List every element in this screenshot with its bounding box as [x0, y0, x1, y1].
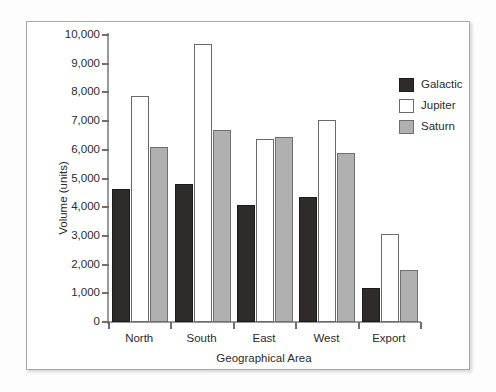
y-axis-tick-label: 7,000 — [26, 115, 100, 127]
bar-galactic-north — [112, 189, 130, 322]
bar-jupiter-east — [256, 139, 274, 322]
bar-group — [175, 35, 231, 322]
bar-group — [362, 35, 418, 322]
x-axis-label-west: West — [295, 333, 357, 345]
x-axis-label-south: South — [170, 333, 232, 345]
y-axis-tick-label: 10,000 — [26, 29, 100, 41]
x-axis-label-export: Export — [358, 333, 420, 345]
y-axis-tick-label: 9,000 — [26, 58, 100, 70]
bar-jupiter-west — [318, 120, 336, 322]
bar-saturn-west — [337, 153, 355, 322]
x-axis-tick — [233, 322, 235, 329]
legend-label-saturn: Saturn — [421, 121, 455, 133]
y-axis-tick-label: 6,000 — [26, 144, 100, 156]
y-axis-tick-labels: 01,0002,0003,0004,0005,0006,0007,0008,00… — [20, 0, 100, 392]
bar-jupiter-export — [381, 234, 399, 322]
bar-saturn-south — [213, 130, 231, 322]
chart-page: Volume (units) Galactic Jupiter Saturn 0… — [0, 0, 496, 392]
x-axis-tick — [295, 322, 297, 329]
bar-galactic-south — [175, 184, 193, 322]
x-axis-category-labels: NorthSouthEastWestExport — [108, 333, 420, 349]
x-axis-label-north: North — [108, 333, 170, 345]
bar-jupiter-north — [131, 96, 149, 322]
x-axis-label-east: East — [233, 333, 295, 345]
bar-group — [237, 35, 293, 322]
legend-label-jupiter: Jupiter — [421, 100, 456, 112]
bar-saturn-export — [400, 270, 418, 322]
y-axis-tick-label: 2,000 — [26, 259, 100, 271]
y-axis-tick-label: 3,000 — [26, 230, 100, 242]
bar-galactic-export — [362, 288, 380, 322]
bar-galactic-west — [299, 197, 317, 322]
bar-group — [299, 35, 355, 322]
y-axis-tick-label: 5,000 — [26, 173, 100, 185]
y-axis-tick-label: 1,000 — [26, 287, 100, 299]
plot-area — [108, 35, 420, 322]
bar-saturn-east — [275, 137, 293, 322]
y-axis-tick-label: 0 — [26, 316, 100, 328]
bar-saturn-north — [150, 147, 168, 322]
x-axis-tick — [420, 322, 422, 329]
x-axis-tick — [170, 322, 172, 329]
bar-group — [112, 35, 168, 322]
y-axis-tick-label: 4,000 — [26, 201, 100, 213]
x-axis-tick — [358, 322, 360, 329]
x-axis-title: Geographical Area — [108, 352, 420, 364]
bar-jupiter-south — [194, 44, 212, 322]
y-axis-tick-label: 8,000 — [26, 86, 100, 98]
bar-galactic-east — [237, 205, 255, 322]
x-axis-tick — [108, 322, 110, 329]
legend-label-galactic: Galactic — [421, 79, 463, 91]
